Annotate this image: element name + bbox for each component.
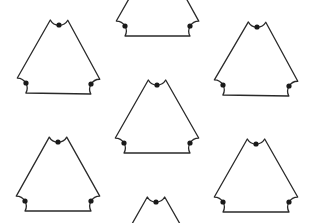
corner-dot-1	[153, 199, 158, 204]
corner-dot-1	[254, 24, 259, 29]
triangle-center	[115, 80, 198, 153]
corner-dot-2	[22, 198, 27, 203]
triangle-top-center-partial	[116, 0, 198, 36]
corner-dot-1	[253, 141, 258, 146]
corner-dot-2	[23, 80, 28, 85]
triangle-bottom-left	[16, 137, 99, 211]
corner-dot-3	[88, 81, 93, 86]
diagram-svg	[0, 0, 315, 223]
corner-dot-1	[56, 22, 61, 27]
triangle-outline	[214, 139, 297, 212]
corner-dot-1	[55, 139, 60, 144]
corner-dot-3	[286, 199, 291, 204]
corner-dot-2	[122, 23, 127, 28]
corner-dot-3	[286, 83, 291, 88]
corner-dot-3	[88, 198, 93, 203]
triangle-pattern-diagram	[0, 0, 315, 223]
triangle-outline	[16, 137, 99, 211]
triangle-outline	[17, 20, 99, 94]
triangle-bottom-right	[214, 139, 297, 212]
corner-dot-2	[220, 199, 225, 204]
corner-dot-2	[220, 82, 225, 87]
corner-dot-3	[187, 23, 192, 28]
triangle-outline	[116, 0, 198, 36]
triangle-bottom-center-partial	[114, 197, 197, 223]
triangle-top-left	[17, 20, 99, 94]
corner-dot-1	[154, 82, 159, 87]
corner-dot-3	[187, 140, 192, 145]
triangle-top-right	[214, 22, 297, 96]
triangle-outline	[214, 22, 297, 96]
triangle-outline	[115, 80, 198, 153]
corner-dot-2	[121, 140, 126, 145]
